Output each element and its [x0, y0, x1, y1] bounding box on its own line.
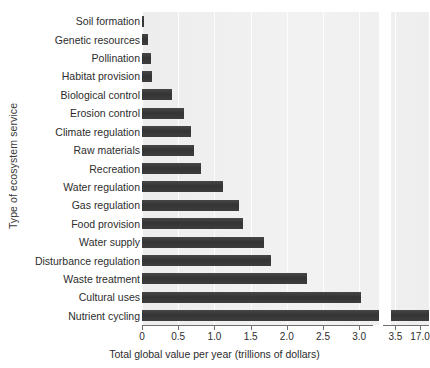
- bar: [142, 237, 264, 248]
- x-axis-title: Total global value per year (trillions o…: [0, 348, 429, 360]
- x-axis-tick: [287, 325, 288, 330]
- category-label: Waste treatment: [16, 274, 140, 285]
- gridline: [395, 12, 396, 325]
- x-axis-tick: [323, 325, 324, 330]
- category-label: Raw materials: [16, 145, 140, 156]
- x-axis-tick-label: 0.5: [171, 331, 185, 342]
- x-axis-tick-label: 2.0: [280, 331, 294, 342]
- bar: [142, 310, 380, 321]
- x-axis-tick: [214, 325, 215, 330]
- category-label: Food provision: [16, 219, 140, 230]
- category-label: Water supply: [16, 237, 140, 248]
- bar: [142, 218, 243, 229]
- category-label: Biological control: [16, 90, 140, 101]
- category-label: Genetic resources: [16, 35, 140, 46]
- category-label: Recreation: [16, 164, 140, 175]
- bar: [142, 34, 148, 45]
- plot-area: [142, 12, 429, 325]
- category-label: Erosion control: [16, 108, 140, 119]
- category-label-column: Soil formationGenetic resourcesPollinati…: [16, 12, 140, 325]
- category-label: Pollination: [16, 53, 140, 64]
- bar-outlier-segment: [389, 310, 429, 321]
- category-label: Nutrient cycling: [16, 311, 140, 322]
- x-axis-tick-label: 1.5: [244, 331, 258, 342]
- x-axis-tick: [251, 325, 252, 330]
- bar: [142, 89, 172, 100]
- category-label: Gas regulation: [16, 200, 140, 211]
- x-axis-tick: [178, 325, 179, 330]
- category-label: Climate regulation: [16, 127, 140, 138]
- x-axis-tick-label: 0: [139, 331, 145, 342]
- bar: [142, 273, 307, 284]
- axis-break-marker: [379, 12, 391, 325]
- x-axis-tick: [359, 325, 360, 330]
- bar: [142, 163, 201, 174]
- bar: [142, 108, 184, 119]
- bar: [142, 126, 191, 137]
- x-axis-tick: [142, 325, 143, 330]
- x-axis-tick: [395, 325, 396, 330]
- x-axis-tick: [420, 325, 421, 330]
- x-axis-tick-label: 1.0: [207, 331, 221, 342]
- category-label: Cultural uses: [16, 292, 140, 303]
- bar: [142, 71, 152, 82]
- x-axis-line-main: [142, 325, 373, 326]
- bar: [142, 53, 151, 64]
- bar: [142, 255, 271, 266]
- x-axis-tick-label: 3.0: [352, 331, 366, 342]
- category-label: Habitat provision: [16, 71, 140, 82]
- bar: [142, 145, 194, 156]
- category-label: Water regulation: [16, 182, 140, 193]
- category-label: Disturbance regulation: [16, 256, 140, 267]
- bar: [142, 16, 144, 27]
- gridline: [359, 12, 360, 325]
- x-axis-tick-label: 2.5: [316, 331, 330, 342]
- x-axis-line-outlier: [383, 325, 429, 326]
- bar: [142, 292, 361, 303]
- x-axis-tick-label: 17.0: [410, 331, 429, 342]
- x-axis-tick-label: 3.5: [388, 331, 402, 342]
- gridline: [323, 12, 324, 325]
- category-label: Soil formation: [16, 16, 140, 27]
- bar: [142, 181, 223, 192]
- bar: [142, 200, 239, 211]
